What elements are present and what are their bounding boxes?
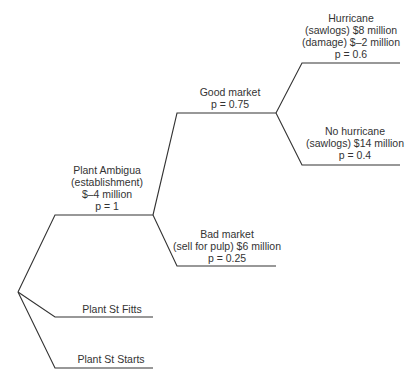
no-hurricane-label: No hurricane (sawlogs) $14 million p = 0… [300, 125, 410, 161]
plant-ambigua-cost: $–4 million [62, 188, 152, 200]
hurricane-label: Hurricane (sawlogs) $8 million (damage) … [300, 12, 402, 60]
plant-ambigua-probability: p = 1 [62, 200, 152, 212]
plant-st-fitts-label: Plant St Fitts [72, 303, 152, 315]
plant-ambigua-title: Plant Ambigua [62, 164, 152, 176]
no-hurricane-title: No hurricane [300, 125, 410, 137]
good-market-probability: p = 0.75 [190, 98, 270, 110]
bad-market-probability: p = 0.25 [172, 252, 282, 264]
no-hurricane-sawlogs-value: (sawlogs) $14 million [300, 137, 410, 149]
hurricane-sawlogs-value: (sawlogs) $8 million [300, 24, 402, 36]
plant-st-fitts-title: Plant St Fitts [72, 303, 152, 315]
good-market-title: Good market [190, 86, 270, 98]
good-market-label: Good market p = 0.75 [190, 86, 270, 110]
branch-plant-ambigua-line [18, 215, 153, 292]
hurricane-title: Hurricane [300, 12, 402, 24]
hurricane-probability: p = 0.6 [300, 48, 402, 60]
bad-market-pulp-value: (sell for pulp) $6 million [172, 240, 282, 252]
no-hurricane-probability: p = 0.4 [300, 149, 410, 161]
plant-ambigua-establishment: (establishment) [62, 176, 152, 188]
branch-hurricane-line [276, 63, 400, 113]
plant-st-starts-label: Plant St Starts [68, 353, 154, 365]
hurricane-damage-value: (damage) $–2 million [300, 36, 402, 48]
plant-st-starts-title: Plant St Starts [68, 353, 154, 365]
plant-ambigua-label: Plant Ambigua (establishment) $–4 millio… [62, 164, 152, 212]
branch-good-market-line [153, 113, 276, 215]
bad-market-title: Bad market [172, 228, 282, 240]
bad-market-label: Bad market (sell for pulp) $6 million p … [172, 228, 282, 264]
